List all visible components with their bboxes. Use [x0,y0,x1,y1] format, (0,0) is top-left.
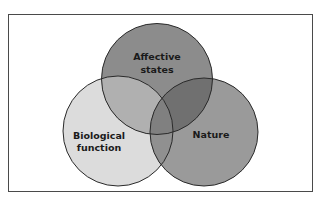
affective-states-label-line2: states [140,64,174,75]
affective-states-label-line1: Affective [133,51,181,62]
biological-function-label-line2: function [77,142,122,153]
nature-label: Nature [193,129,230,140]
venn-diagram: Affective states Biological function Nat… [0,0,321,198]
biological-function-label-line1: Biological [73,130,125,141]
